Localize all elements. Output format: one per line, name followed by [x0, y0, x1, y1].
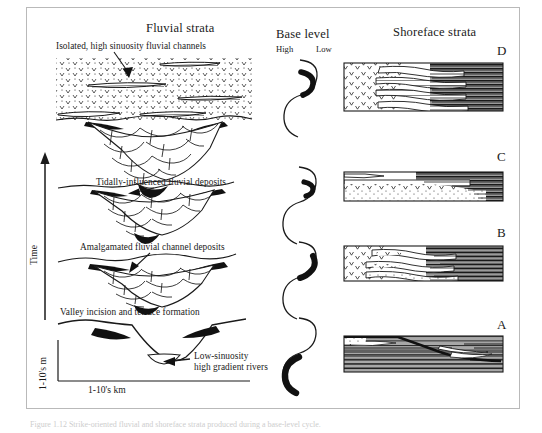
fluvial-panel-a: [58, 319, 246, 366]
baselevel-curve-d: [284, 60, 317, 137]
baselevel-curve-c: [283, 167, 316, 244]
fluvial-panel-b: [58, 253, 236, 315]
annotation-arrow-b: [129, 253, 150, 273]
shoreface-panel-a: [344, 336, 507, 372]
baselevel-curve-a: [283, 318, 316, 395]
time-axis-arrow: [40, 152, 49, 320]
shoreface-panel-d: [344, 63, 503, 112]
baselevel-curve-b: [283, 242, 316, 319]
shoreface-panel-b: [344, 246, 503, 282]
diagram-artwork: [0, 0, 542, 433]
figure-root: Fluvial strata Base level Shoreface stra…: [0, 0, 542, 433]
fluvial-panel-d: [56, 52, 252, 198]
shoreface-panel-c: [344, 172, 503, 201]
